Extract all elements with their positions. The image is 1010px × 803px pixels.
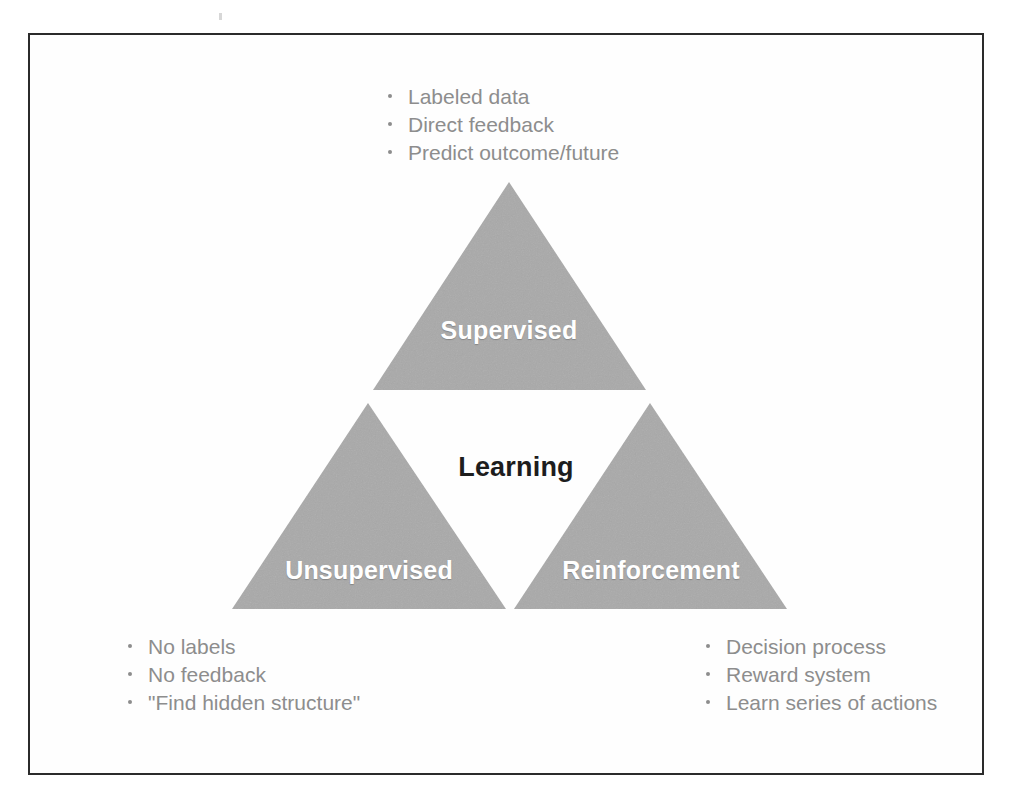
- bullet-list-supervised: Labeled data Direct feedback Predict out…: [386, 83, 619, 167]
- list-item: Learn series of actions: [704, 689, 937, 717]
- list-item: Predict outcome/future: [386, 139, 619, 167]
- bullet-dot-icon: [706, 700, 710, 704]
- list-item: No labels: [126, 633, 360, 661]
- bullet-dot-icon: [128, 644, 132, 648]
- list-item: Labeled data: [386, 83, 619, 111]
- list-item: Reward system: [704, 661, 937, 689]
- list-item-label: Reward system: [726, 663, 871, 686]
- bullet-dot-icon: [128, 672, 132, 676]
- list-item-label: Decision process: [726, 635, 886, 658]
- list-item-label: No labels: [148, 635, 236, 658]
- bullet-dot-icon: [706, 672, 710, 676]
- bullet-dot-icon: [388, 150, 392, 154]
- triangle-label-unsupervised: Unsupervised: [285, 556, 453, 585]
- triangle-label-reinforcement: Reinforcement: [562, 556, 740, 585]
- list-item-label: Labeled data: [408, 85, 529, 108]
- list-item: Direct feedback: [386, 111, 619, 139]
- bullet-list-unsupervised: No labels No feedback "Find hidden struc…: [126, 633, 360, 717]
- triangle-supervised[interactable]: [373, 182, 646, 390]
- learning-types-diagram: Supervised Unsupervised Reinforcement Le…: [0, 0, 1010, 803]
- list-item: Decision process: [704, 633, 937, 661]
- bullet-dot-icon: [706, 644, 710, 648]
- list-item-label: Direct feedback: [408, 113, 554, 136]
- bullet-list-reinforcement: Decision process Reward system Learn ser…: [704, 633, 937, 717]
- list-item-label: Predict outcome/future: [408, 141, 619, 164]
- triangle-label-supervised: Supervised: [441, 316, 578, 345]
- list-item-label: No feedback: [148, 663, 266, 686]
- list-item-label: Learn series of actions: [726, 691, 937, 714]
- center-label-learning: Learning: [458, 452, 574, 483]
- list-item-label: "Find hidden structure": [148, 691, 360, 714]
- list-item: "Find hidden structure": [126, 689, 360, 717]
- bullet-dot-icon: [128, 700, 132, 704]
- bullet-dot-icon: [388, 94, 392, 98]
- list-item: No feedback: [126, 661, 360, 689]
- bullet-dot-icon: [388, 122, 392, 126]
